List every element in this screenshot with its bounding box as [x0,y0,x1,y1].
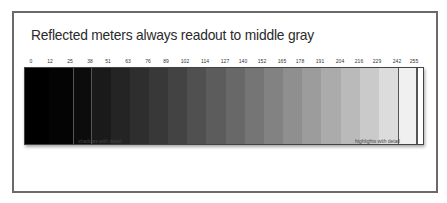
gray-patch-76 [149,68,168,144]
value-label-89: 89 [163,58,169,64]
gray-patch-51 [111,68,130,144]
value-label-204: 204 [336,58,344,64]
value-label-127: 127 [221,58,229,64]
gray-patch-114 [206,68,226,144]
gray-patch-216 [360,68,379,144]
gray-patch-152 [264,68,283,144]
gray-patch-229 [379,68,398,144]
value-label-76: 76 [145,58,151,64]
value-label-152: 152 [258,58,266,64]
gray-patch-255 [417,68,424,144]
gray-patch-140 [245,68,264,144]
value-label-229: 229 [373,58,381,64]
highlights-caption: highlights with detail [355,138,400,144]
value-label-114: 114 [201,58,209,64]
value-label-63: 63 [125,58,131,64]
value-label-102: 102 [181,58,189,64]
gray-patch-89 [168,68,187,144]
value-label-140: 140 [239,58,247,64]
gray-patch-38 [92,68,111,144]
gray-patch-0 [25,68,49,144]
value-label-0: 0 [30,58,33,64]
gray-patch-63 [130,68,149,144]
value-label-242: 242 [393,58,401,64]
value-label-25: 25 [67,58,73,64]
value-label-38: 38 [87,58,93,64]
value-label-51: 51 [105,58,111,64]
gray-patch-191 [321,68,341,144]
gray-patch-25 [73,68,92,144]
value-label-255: 255 [410,58,418,64]
figure-title: Reflected meters always readout to middl… [31,26,314,43]
gray-patch-127 [226,68,245,144]
gray-patch-204 [341,68,360,144]
value-label-178: 178 [296,58,304,64]
shadows-caption: shadows with detail [78,138,121,144]
gray-patch-102 [187,68,206,144]
value-label-216: 216 [355,58,363,64]
gray-patch-12 [49,68,73,144]
value-label-191: 191 [316,58,324,64]
grayscale-strip [24,67,424,145]
value-label-165: 165 [278,58,286,64]
gray-patch-242 [398,68,417,144]
value-labels-row: 0122538516376891021141271401521651781912… [0,44,447,54]
gray-patch-178 [302,68,321,144]
gray-patch-165 [283,68,302,144]
value-label-12: 12 [47,58,53,64]
